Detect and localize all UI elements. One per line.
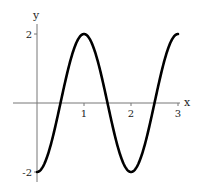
x-tick-label: 2	[128, 108, 134, 119]
chart: 123-22 x y	[0, 0, 206, 195]
y-axis-label: y	[32, 9, 40, 22]
x-axis-label: x	[184, 96, 191, 109]
y-tick-label: 2	[26, 29, 32, 40]
x-tick-label: 1	[81, 108, 87, 119]
x-tick-label: 3	[175, 108, 181, 119]
y-tick-label: -2	[22, 167, 32, 178]
